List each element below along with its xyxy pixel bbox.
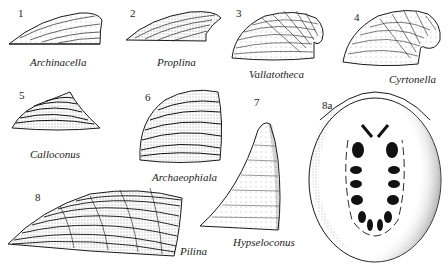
specimen-number-3: 3 — [236, 8, 242, 19]
specimen-number-2: 2 — [130, 8, 136, 19]
specimen-label-pilina: Pilina — [180, 246, 207, 257]
specimen-number-6: 6 — [145, 92, 151, 103]
specimen-label-calloconus: Calloconus — [30, 149, 80, 160]
specimen-number-4: 4 — [354, 12, 360, 23]
specimen-label-cyrtonella: Cyrtonella — [389, 74, 436, 85]
specimen-number-7: 7 — [254, 97, 260, 108]
specimen-number-5: 5 — [19, 90, 25, 101]
shell-archaeophiala — [140, 90, 222, 162]
shell-illustration-plate: 1 Archinacella 2 Proplina 3 Vallatotheca… — [0, 0, 448, 266]
shell-calloconus — [12, 92, 100, 130]
specimen-label-archaeophiala: Archaeophiala — [152, 172, 217, 183]
specimen-number-8a: 8a — [322, 100, 332, 111]
specimen-label-vallatotheca: Vallatotheca — [249, 69, 304, 80]
specimen-label-proplina: Proplina — [157, 57, 196, 68]
specimen-number-8: 8 — [35, 192, 41, 203]
shell-drawings — [0, 0, 448, 266]
specimen-label-hypseloconus: Hypseloconus — [233, 237, 295, 248]
specimen-label-archinacella: Archinacella — [30, 57, 86, 68]
specimen-number-1: 1 — [18, 8, 24, 19]
shell-pilina-ventral-view — [309, 92, 441, 262]
shell-proplina — [126, 12, 221, 41]
shell-vallatotheca — [232, 11, 323, 60]
